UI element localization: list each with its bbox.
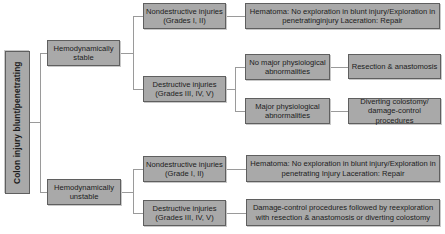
- connector: [121, 192, 133, 193]
- node-unstable-destructive-management: Damage-control procedures followed by re…: [246, 199, 440, 226]
- connector: [133, 16, 134, 90]
- connector: [235, 67, 245, 68]
- connector: [330, 111, 348, 112]
- connector: [226, 16, 245, 17]
- connector: [235, 67, 236, 112]
- node-diverting-colostomy: Diverting colostomy/ damage-control proc…: [348, 98, 441, 124]
- connector: [133, 89, 143, 90]
- connector: [30, 122, 40, 123]
- node-resection-anastomosis: Resection & anastomosis: [348, 54, 441, 79]
- connector: [133, 16, 143, 17]
- node-unstable-nondestructive-management: Hematoma: No exploration in blunt injury…: [246, 155, 440, 182]
- connector: [133, 213, 143, 214]
- node-unstable-nondestructive: Nondestructive injuries (Grade I, II): [143, 156, 226, 182]
- node-stable-destructive: Destructive injuries (Grades III, IV, V): [143, 76, 226, 102]
- connector: [120, 53, 133, 54]
- connector: [133, 169, 134, 214]
- node-no-major-abnormalities: No major physiological abnormalities: [245, 54, 330, 80]
- node-hemodynamically-unstable: Hemodynamically unstable: [47, 179, 121, 205]
- connector: [40, 53, 47, 54]
- connector: [40, 53, 41, 193]
- root-node: Colon injury blunt/penetrating: [5, 51, 30, 194]
- node-stable-nondestructive-management: Hematoma: No exploration in blunt injury…: [245, 3, 440, 29]
- connector: [226, 169, 246, 170]
- connector: [226, 213, 246, 214]
- connector: [40, 192, 47, 193]
- node-major-abnormalities: Major physiological abnormalities: [245, 98, 330, 124]
- node-stable-nondestructive: Nondestructive injuries (Grades I, II): [143, 3, 226, 29]
- connector: [133, 169, 143, 170]
- node-unstable-destructive: Destructive injuries (Grades III, IV, V): [143, 200, 226, 226]
- node-hemodynamically-stable: Hemodynamically stable: [47, 40, 120, 66]
- connector: [330, 67, 348, 68]
- connector: [226, 89, 235, 90]
- connector: [235, 111, 245, 112]
